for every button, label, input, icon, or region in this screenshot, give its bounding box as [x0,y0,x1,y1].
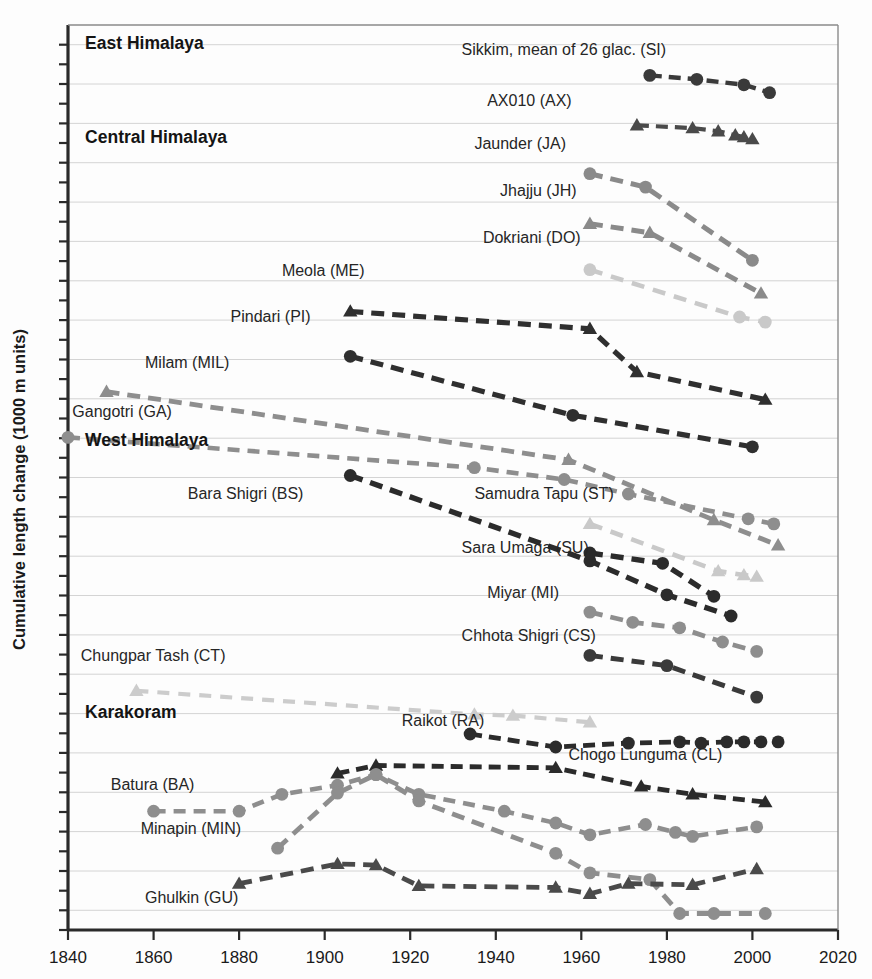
data-point-marker [468,461,481,474]
data-point-marker [498,805,511,818]
data-point-marker [643,226,657,238]
series-MIL [99,385,785,551]
x-tick-label: 1880 [220,948,258,967]
series-label-GU: Ghulkin (GU) [145,889,238,906]
data-point-marker [583,517,597,529]
data-point-marker [738,736,751,749]
series-JA [584,167,759,266]
data-point-marker [669,826,682,839]
data-point-marker [464,728,477,741]
data-point-marker [716,636,729,649]
series-CS [584,649,764,703]
data-point-marker [690,73,703,86]
series-line [154,775,757,837]
series-line [350,312,765,400]
x-tick-label: 1840 [49,948,87,967]
data-point-marker [331,787,344,800]
data-point-marker [271,842,284,855]
x-tick-label: 1980 [648,948,686,967]
data-point-marker [746,254,759,267]
series-ME [343,304,772,405]
series-AX [630,118,760,144]
data-point-marker [412,795,425,808]
x-tick-label: 1960 [562,948,600,967]
series-label-CS: Chhota Shigri (CS) [462,627,596,644]
series-label-AX: AX010 (AX) [487,92,571,109]
data-point-marker [626,616,639,629]
data-point-marker [643,69,656,82]
series-label-MI: Miyar (MI) [487,584,559,601]
series-MIN [271,768,771,920]
data-point-marker [750,570,764,582]
plot-area-wrapper: Sikkim, mean of 26 glac. (SI)AX010 (AX)J… [0,0,872,979]
series-label-RA: Raikot (RA) [402,712,485,729]
data-point-marker [759,316,772,329]
data-point-marker [755,736,768,749]
x-tick-label: 1940 [477,948,515,967]
data-point-marker [661,659,674,672]
data-point-marker [584,867,597,880]
series-label-CT: Chungpar Tash (CT) [81,647,226,664]
series-label-BA: Batura (BA) [111,776,195,793]
data-point-marker [656,557,669,570]
x-tick-label: 2020 [819,948,857,967]
series-line [590,174,753,261]
data-point-marker [639,818,652,831]
data-point-marker [708,907,721,920]
series-DO [584,263,772,328]
chart-figure: Cumulative length change (1000 m units) … [0,0,872,979]
data-point-marker [622,488,635,501]
region-label-west-himalaya: West Himalaya [85,430,208,450]
series-GU [232,857,764,899]
data-point-marker [344,469,357,482]
data-point-marker [584,167,597,180]
region-label-karakoram: Karakoram [85,702,176,722]
series-label-JH: Jhajju (JH) [500,182,576,199]
series-label-ME: Meola (ME) [282,262,365,279]
x-tick-label: 1900 [306,948,344,967]
data-point-marker [661,588,674,601]
series-line [590,224,761,294]
data-point-marker [370,768,383,781]
x-tick-labels: 1840186018801900192019401960198020002020 [49,948,857,967]
region-label-central-himalaya: Central Himalaya [85,127,227,147]
data-point-marker [733,311,746,324]
series-JH [583,217,769,299]
data-point-marker [759,907,772,920]
glacier-length-change-chart: Sikkim, mean of 26 glac. (SI)AX010 (AX)J… [0,0,872,979]
x-tick-label: 1920 [391,948,429,967]
data-point-marker [584,606,597,619]
x-tick-label: 1860 [135,948,173,967]
series-label-SU: Sara Umaga (SU) [462,539,589,556]
data-point-marker [686,830,699,843]
data-point-marker [561,453,575,465]
data-point-marker [673,621,686,634]
region-label-east-himalaya: East Himalaya [85,33,204,53]
series-SU [584,547,721,603]
series-label-DO: Dokriani (DO) [483,229,581,246]
data-point-marker [147,805,160,818]
data-point-marker [62,431,75,444]
series-line [239,864,757,894]
data-point-marker [725,610,738,623]
series-label-BS: Bara Shigri (BS) [188,485,304,502]
data-point-marker [549,817,562,830]
data-point-marker [276,788,289,801]
data-point-marker [566,409,579,422]
series-label-CL: Chogo Lunguma (CL) [569,746,723,763]
series-label-MIN: Minapin (MIN) [141,820,241,837]
data-point-marker [750,821,763,834]
series-label-SI: Sikkim, mean of 26 glac. (SI) [462,41,667,58]
data-point-marker [750,691,763,704]
series-line [107,392,779,546]
series-CT [129,684,597,728]
axis-ticks [59,45,838,940]
series-line [590,655,757,697]
data-point-marker [584,263,597,276]
series-line [68,437,774,524]
data-point-marker [742,512,755,525]
series-label-JA: Jaunder (JA) [474,135,566,152]
data-point-marker [549,847,562,860]
series-label-PI: Pindari (PI) [231,308,311,325]
series-label-MIL: Milam (MIL) [145,354,229,371]
